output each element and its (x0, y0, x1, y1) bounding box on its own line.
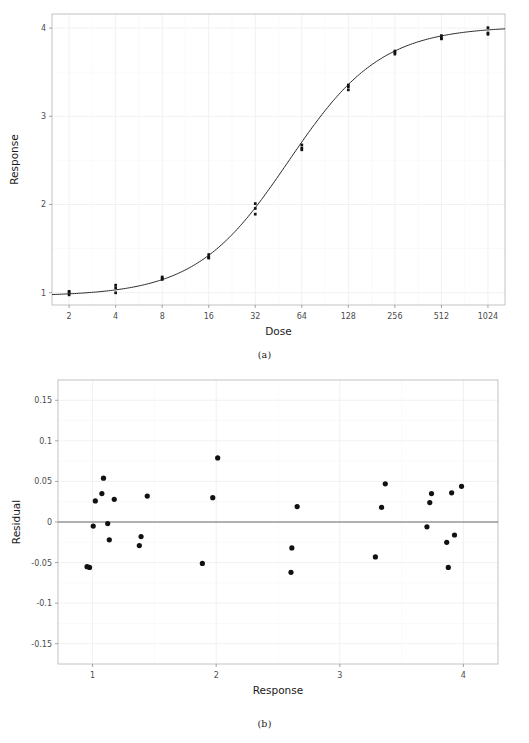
x-tick-label: 4 (113, 312, 118, 321)
residual-point (452, 532, 457, 537)
grid-lines (52, 14, 505, 305)
y-axis-title: Response (8, 134, 20, 184)
residual-point (295, 504, 300, 509)
residual-point (424, 524, 429, 529)
figure-container: 12342481632641282565121024DoseResponse (… (0, 0, 529, 743)
panel-a-caption: (a) (0, 349, 529, 360)
x-tick-label: 2 (214, 671, 219, 680)
x-tick-label: 64 (297, 312, 307, 321)
residual-point (107, 537, 112, 542)
data-point (487, 26, 490, 29)
residual-point (91, 523, 96, 528)
data-points (84, 455, 464, 575)
residual-point (112, 497, 117, 502)
data-point (487, 33, 490, 36)
x-tick-label: 4 (461, 671, 466, 680)
residual-point (459, 484, 464, 489)
y-tick-label: 0.1 (39, 437, 52, 446)
residual-point (444, 540, 449, 545)
x-tick-label: 512 (434, 312, 449, 321)
residual-point (373, 554, 378, 559)
x-tick-label: 2 (67, 312, 72, 321)
residual-point (99, 491, 104, 496)
residual-point (215, 455, 220, 460)
residual-point (383, 481, 388, 486)
residual-point (138, 534, 143, 539)
residual-point (210, 495, 215, 500)
x-tick-label: 1 (90, 671, 95, 680)
y-tick-label: 0.15 (34, 396, 52, 405)
residual-point (87, 565, 92, 570)
data-point (114, 286, 117, 289)
residual-point (288, 570, 293, 575)
data-point (68, 294, 71, 297)
residual-point (93, 498, 98, 503)
x-axis-title: Dose (265, 325, 291, 337)
residual-point (137, 543, 142, 548)
x-tick-label: 8 (160, 312, 165, 321)
residual-point (446, 565, 451, 570)
axes: 0.150.10.050-0.05-0.1-0.151234 (31, 396, 466, 680)
data-point (254, 207, 257, 210)
data-point (161, 278, 164, 281)
data-point (440, 38, 443, 41)
residual-point (101, 476, 106, 481)
y-tick-label: 0 (47, 518, 52, 527)
panel-b-caption: (b) (0, 718, 529, 729)
data-point (254, 202, 257, 205)
y-tick-label: 0.05 (34, 477, 52, 486)
data-point (440, 34, 443, 37)
y-axis-title: Residual (10, 500, 22, 544)
data-point (207, 253, 210, 256)
x-tick-label: 3 (337, 671, 342, 680)
x-tick-label: 16 (204, 312, 214, 321)
residual-point (379, 505, 384, 510)
x-tick-label: 128 (341, 312, 356, 321)
residual-plot: 0.150.10.050-0.05-0.1-0.151234ResponseRe… (0, 372, 529, 716)
x-tick-label: 1024 (478, 312, 498, 321)
residual-point (289, 545, 294, 550)
x-tick-label: 256 (387, 312, 402, 321)
panel-b-residual: 0.150.10.050-0.05-0.1-0.151234ResponseRe… (0, 372, 529, 743)
data-point (114, 284, 117, 287)
y-tick-label: -0.05 (31, 559, 52, 568)
residual-point (105, 521, 110, 526)
data-point (207, 257, 210, 260)
data-point (347, 88, 350, 91)
y-tick-label: 1 (41, 289, 46, 298)
dose-response-plot: 12342481632641282565121024DoseResponse (0, 0, 529, 345)
panel-a-dose-response: 12342481632641282565121024DoseResponse (0, 0, 529, 372)
data-point (300, 148, 303, 151)
data-point (114, 291, 117, 294)
x-axis-title: Response (253, 684, 303, 696)
data-point (347, 85, 350, 88)
residual-point (200, 561, 205, 566)
data-point (300, 144, 303, 147)
data-point (394, 53, 397, 56)
y-tick-label: -0.15 (31, 640, 52, 649)
y-tick-label: 3 (41, 112, 46, 121)
x-tick-label: 32 (250, 312, 260, 321)
y-tick-label: 2 (41, 200, 46, 209)
y-tick-label: -0.1 (36, 599, 52, 608)
y-tick-label: 4 (41, 24, 46, 33)
residual-point (427, 500, 432, 505)
residual-point (145, 493, 150, 498)
residual-point (429, 491, 434, 496)
data-point (254, 213, 257, 216)
residual-point (449, 490, 454, 495)
data-point (68, 291, 71, 294)
axes: 12342481632641282565121024 (41, 24, 498, 321)
